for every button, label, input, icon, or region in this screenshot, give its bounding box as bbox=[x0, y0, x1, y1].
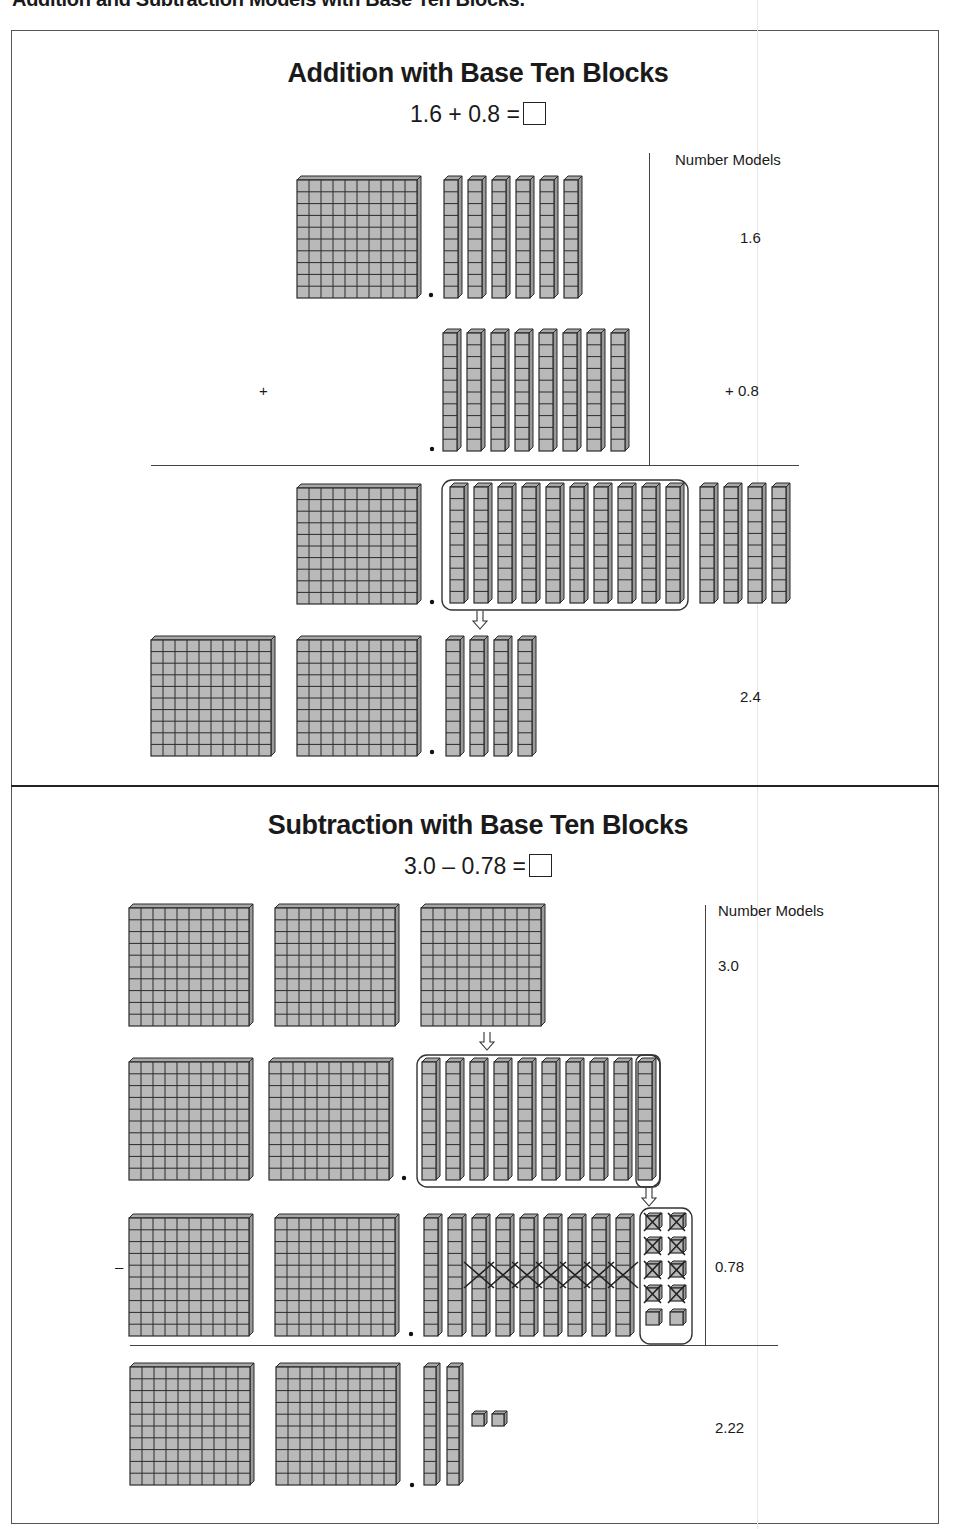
decimal-point bbox=[429, 293, 433, 297]
unit-cube bbox=[646, 1312, 659, 1325]
unit-cube bbox=[670, 1312, 683, 1325]
decimal-point bbox=[402, 1176, 406, 1180]
decimal-point bbox=[409, 1332, 413, 1336]
trade-arrow-icon bbox=[642, 1188, 656, 1206]
blocks-layer bbox=[129, 176, 790, 1487]
decimal-point bbox=[430, 447, 434, 451]
trade-arrow-icon bbox=[473, 611, 487, 629]
decimal-point bbox=[410, 1483, 414, 1487]
decimal-point bbox=[430, 750, 434, 754]
decimal-point bbox=[430, 600, 434, 604]
unit-cube bbox=[492, 1414, 504, 1426]
trade-arrow-icon bbox=[480, 1032, 494, 1050]
base-ten-blocks-drawing bbox=[0, 0, 956, 1529]
unit-cube bbox=[472, 1414, 484, 1426]
